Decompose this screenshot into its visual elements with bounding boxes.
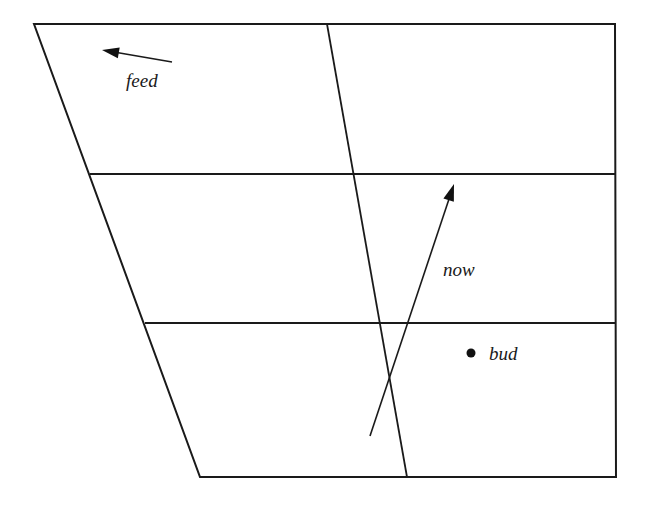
label-now: now	[443, 259, 475, 280]
chart-frame	[34, 24, 616, 477]
now-arrow-shaft	[370, 198, 449, 436]
feed-arrow-shaft	[117, 53, 172, 62]
arrow-head-icon	[102, 47, 120, 58]
label-bud: bud	[489, 343, 518, 364]
vowel-chart-diagram: feed now bud	[0, 0, 646, 506]
label-feed: feed	[126, 70, 158, 91]
vertical-divider	[327, 24, 407, 477]
now-arrow	[370, 184, 454, 436]
bud-point-marker	[467, 349, 476, 358]
arrow-head-icon	[443, 184, 454, 202]
feed-arrow	[102, 47, 172, 62]
